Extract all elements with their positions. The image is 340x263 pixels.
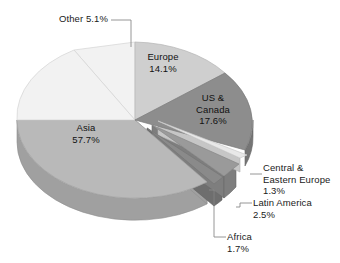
label-latin-america-value: 2.5% [253, 209, 339, 221]
label-cee-name-line2: Eastern Europe [263, 174, 339, 186]
label-us-canada-name-line1: US & [182, 92, 244, 104]
label-latin-america: Latin America 2.5% [253, 197, 339, 220]
pie-chart-svg [0, 0, 340, 263]
label-cee-value: 1.3% [263, 185, 339, 197]
label-asia-name: Asia [58, 122, 114, 134]
label-central-eastern-europe: Central & Eastern Europe 1.3% [263, 162, 339, 197]
label-asia: Asia 57.7% [58, 122, 114, 145]
label-other-text: Other 5.1% [24, 13, 108, 25]
pie-chart-figure: Other 5.1% Europe 14.1% US & Canada 17.6… [0, 0, 340, 263]
label-other: Other 5.1% [24, 13, 108, 25]
leader-line-latin-america [236, 203, 252, 207]
label-cee-name-line1: Central & [263, 162, 339, 174]
label-africa: Africa 1.7% [227, 231, 287, 254]
label-africa-name: Africa [227, 231, 287, 243]
label-europe-name: Europe [134, 51, 192, 63]
label-us-canada-name-line2: Canada [182, 104, 244, 116]
label-latin-america-name: Latin America [253, 197, 339, 209]
label-europe-value: 14.1% [134, 63, 192, 75]
label-africa-value: 1.7% [227, 243, 287, 255]
label-us-canada-value: 17.6% [182, 115, 244, 127]
label-asia-value: 57.7% [58, 134, 114, 146]
label-europe: Europe 14.1% [134, 51, 192, 74]
label-us-canada: US & Canada 17.6% [182, 92, 244, 127]
